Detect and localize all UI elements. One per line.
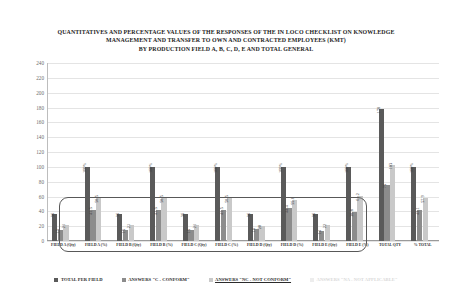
bar[interactable]: 36 [313, 214, 318, 241]
x-axis-labels: FIELD A (Qty)FIELD A (%)FIELD B (Qty)FIE… [47, 243, 439, 255]
bar[interactable]: 36 [183, 214, 188, 241]
bar-value-label: 100% [82, 163, 87, 173]
bar-value-label: 100% [409, 163, 414, 173]
bar-value-label: 103 [388, 162, 393, 168]
bar[interactable]: 36 [117, 214, 122, 241]
bar-group: 361422 [313, 63, 336, 241]
bar[interactable]: 100% [346, 167, 351, 241]
bar-value-label: 58.5 [159, 195, 164, 203]
bar-value-label: 15 [121, 229, 126, 233]
bar[interactable]: 61.2 [357, 196, 362, 241]
bar-group: 100%41.558.5 [150, 63, 173, 241]
bar-group: 100%41.558.5 [85, 63, 108, 241]
bar[interactable]: 38.8 [352, 212, 357, 241]
chart-title-line-3: BY PRODUCTION FIELD A, B, C, D, E AND TO… [34, 45, 418, 53]
bar[interactable]: 42.1 [417, 210, 422, 241]
bar-value-label: 100% [344, 163, 349, 173]
x-axis-tick-label: FIELD C (Qty) [182, 243, 207, 247]
bar[interactable]: 100% [85, 167, 90, 241]
bar[interactable]: 178 [379, 109, 384, 241]
bar-group: 100%41.558.5 [215, 63, 238, 241]
bar[interactable]: 15 [123, 230, 128, 241]
bar[interactable]: 103 [390, 165, 395, 241]
y-axis-tick-label: 200 [36, 90, 44, 96]
y-axis-tick-label: 80 [39, 179, 44, 185]
y-axis-tick-label: 120 [36, 149, 44, 155]
bar-value-label: 15 [55, 229, 60, 233]
x-axis-tick-label: FIELD E (%) [346, 243, 368, 247]
bar-group: 361521 [52, 63, 75, 241]
legend-swatch-icon [310, 278, 314, 282]
legend-swatch-icon [209, 278, 213, 282]
bar[interactable]: 100% [150, 167, 155, 241]
bar-value-label: 21 [61, 224, 66, 228]
chart-legend: TOTAL PER FIELDANSWERS "C - CONFORM"ANSW… [0, 277, 452, 282]
bar[interactable]: 21 [194, 225, 199, 241]
bar-group: 361521 [183, 63, 206, 241]
bar[interactable]: 58.5 [161, 198, 166, 241]
bar-value-label: 55.6 [290, 197, 295, 205]
bar-value-label: 58.5 [94, 195, 99, 203]
x-axis-tick-label: FIELD B (%) [150, 243, 172, 247]
legend-swatch-icon [54, 278, 58, 282]
bar-value-label: 41.5 [88, 207, 93, 215]
bar-value-label: 20 [257, 225, 262, 229]
legend-item[interactable]: ANSWERS "NA - NOT APPLICABLE" [310, 277, 398, 282]
y-axis-tick-label: 60 [39, 194, 44, 200]
bar-value-label: 178 [376, 107, 381, 113]
bar[interactable]: 22 [325, 225, 330, 241]
bar[interactable]: 15 [188, 230, 193, 241]
bar[interactable]: 55.6 [292, 200, 297, 241]
plot-area: 020406080100120140160180200220240 361521… [47, 63, 439, 241]
bar[interactable]: 75 [384, 185, 389, 241]
y-axis-tick-label: 100 [36, 164, 44, 170]
bar-group: 17875103 [379, 63, 402, 241]
bar-value-label: 75 [382, 184, 387, 188]
bar[interactable]: 41.5 [221, 210, 226, 241]
bar[interactable]: 41.5 [90, 210, 95, 241]
bar[interactable]: 44.4 [286, 208, 291, 241]
legend-item[interactable]: TOTAL PER FIELD [54, 277, 102, 282]
bar-value-label: 14 [317, 229, 322, 233]
y-axis-tick-label: 40 [39, 208, 44, 214]
chart-figure: QUANTITATIVES AND PERCENTAGE VALUES OF T… [0, 0, 452, 307]
x-axis-tick-label: FIELD A (%) [85, 243, 107, 247]
bar[interactable]: 15 [58, 230, 63, 241]
y-axis-tick-label: 160 [36, 119, 44, 125]
bar-value-label: 41.5 [219, 207, 224, 215]
bar[interactable]: 20 [259, 226, 264, 241]
bar[interactable]: 100% [411, 167, 416, 241]
bar-value-label: 41.5 [153, 207, 158, 215]
bar-value-label: 100% [148, 163, 153, 173]
bar[interactable]: 41.5 [156, 210, 161, 241]
bar-value-label: 36 [311, 213, 316, 217]
legend-label: ANSWERS "NC - NOT CONFORM" [215, 277, 291, 282]
bar-value-label: 36 [115, 213, 120, 217]
bar[interactable]: 100% [215, 167, 220, 241]
bar[interactable]: 21 [129, 225, 134, 241]
bar[interactable]: 21 [63, 225, 68, 241]
y-axis-tick-label: 220 [36, 75, 44, 81]
chart-title-line-2: MANAGEMENT AND TRANSFER TO OWN AND CONTR… [34, 36, 418, 44]
legend-label: ANSWERS "C - CONFORM" [128, 277, 189, 282]
x-axis-tick-label: FIELD A (Qty) [51, 243, 75, 247]
bar[interactable]: 36 [52, 214, 57, 241]
bar-value-label: 100% [278, 163, 283, 173]
bar-value-label: 44.4 [284, 205, 289, 213]
bar[interactable]: 16 [254, 229, 259, 241]
x-axis-tick-label: TOTAL QTY [379, 243, 401, 247]
bar-group: 100%42.157.9 [411, 63, 434, 241]
y-axis-tick-label: 0 [41, 238, 44, 244]
legend-item[interactable]: ANSWERS "C - CONFORM" [122, 277, 190, 282]
bar[interactable]: 14 [319, 231, 324, 241]
x-axis-tick-label: FIELD D (Qty) [247, 243, 272, 247]
bar[interactable]: 100% [281, 167, 286, 241]
y-axis-tick-label: 140 [36, 134, 44, 140]
bar[interactable]: 58.5 [96, 198, 101, 241]
legend-label: TOTAL PER FIELD [61, 277, 103, 282]
chart-title: QUANTITATIVES AND PERCENTAGE VALUES OF T… [34, 28, 418, 53]
bar[interactable]: 58.5 [227, 198, 232, 241]
legend-item[interactable]: ANSWERS "NC - NOT CONFORM" [209, 277, 292, 282]
bar[interactable]: 57.9 [423, 198, 428, 241]
y-axis-tick-label: 240 [36, 60, 44, 66]
